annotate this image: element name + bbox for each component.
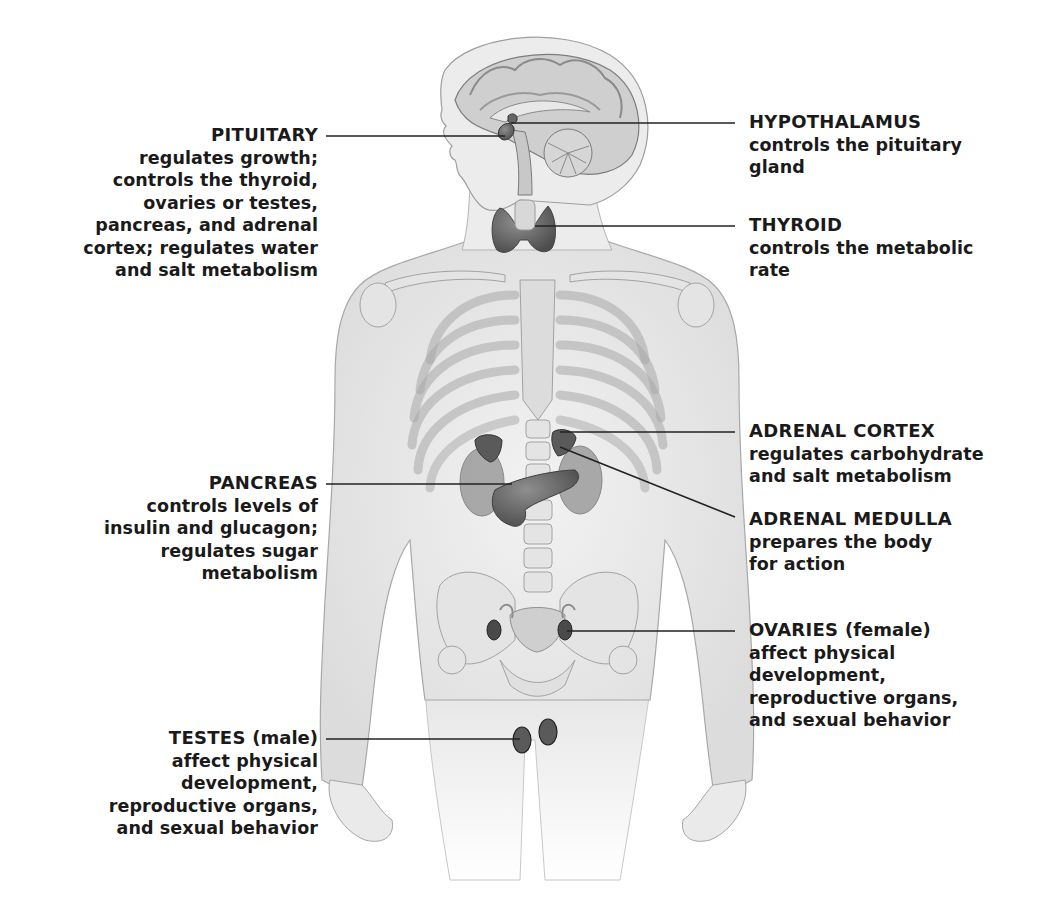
gland-title: THYROID — [749, 214, 974, 237]
label-thyroid: THYROID controls the metabolic rate — [749, 214, 974, 282]
gland-description-line: pancreas, and adrenal — [83, 214, 318, 237]
gland-description-line: insulin and glucagon; — [104, 517, 318, 540]
gland-description-line: cortex; regulates water — [83, 237, 318, 260]
gland-description-line: regulates growth; — [83, 147, 318, 170]
gland-description-line: and salt metabolism — [749, 465, 984, 488]
label-hypothalamus: HYPOTHALAMUS controls the pituitary glan… — [749, 111, 962, 179]
gland-description-line: and sexual behavior — [109, 817, 318, 840]
label-testes: TESTES (male) affect physical developmen… — [109, 727, 318, 840]
gland-description-line: development, — [749, 664, 958, 687]
label-adrenal-cortex: ADRENAL CORTEX regulates carbohydrate an… — [749, 420, 984, 488]
gland-description-line: controls the metabolic — [749, 237, 974, 260]
gland-qualifier: (female) — [845, 619, 931, 640]
testis-right — [539, 719, 557, 745]
gland-title: TESTES — [169, 727, 246, 748]
gland-description-line: reproductive organs, — [109, 795, 318, 818]
gland-title-row: OVARIES (female) — [749, 619, 958, 642]
gland-description-line: affect physical — [109, 750, 318, 773]
gland-description-line: and sexual behavior — [749, 709, 958, 732]
label-pituitary: PITUITARY regulates growth; controls the… — [83, 124, 318, 282]
gland-description-line: controls levels of — [104, 495, 318, 518]
gland-description-line: gland — [749, 156, 962, 179]
gland-description-line: for action — [749, 553, 952, 576]
label-adrenal-medulla: ADRENAL MEDULLA prepares the body for ac… — [749, 508, 952, 576]
gland-description-line: controls the pituitary — [749, 134, 962, 157]
gland-description-line: metabolism — [104, 562, 318, 585]
gland-description-line: controls the thyroid, — [83, 169, 318, 192]
ovary-left — [487, 620, 501, 640]
gland-title: PANCREAS — [104, 472, 318, 495]
ovary-right — [558, 620, 572, 640]
gland-title: ADRENAL MEDULLA — [749, 508, 952, 531]
gland-qualifier: (male) — [252, 727, 318, 748]
gland-description-line: reproductive organs, — [749, 687, 958, 710]
gland-description-line: rate — [749, 259, 974, 282]
gland-title: HYPOTHALAMUS — [749, 111, 962, 134]
gland-description-line: and salt metabolism — [83, 259, 318, 282]
label-ovaries: OVARIES (female) affect physical develop… — [749, 619, 958, 732]
label-pancreas: PANCREAS controls levels of insulin and … — [104, 472, 318, 585]
gland-description-line: ovaries or testes, — [83, 192, 318, 215]
gland-description-line: affect physical — [749, 642, 958, 665]
gland-description-line: regulates sugar — [104, 540, 318, 563]
gland-description-line: prepares the body — [749, 531, 952, 554]
gland-description-line: development, — [109, 772, 318, 795]
gland-title: ADRENAL CORTEX — [749, 420, 984, 443]
hypothalamus-region — [508, 114, 517, 124]
gland-title-row: TESTES (male) — [109, 727, 318, 750]
gland-title: OVARIES — [749, 619, 838, 640]
gland-title: PITUITARY — [83, 124, 318, 147]
gland-description-line: regulates carbohydrate — [749, 443, 984, 466]
testis-left — [513, 727, 531, 753]
